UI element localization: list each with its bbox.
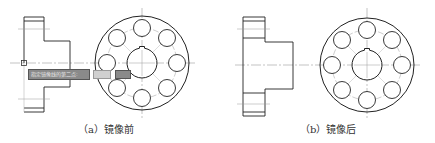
caption-panel-a: （a）镜像前	[78, 121, 134, 136]
profile-full-view	[243, 17, 293, 116]
panel-a-drawing	[10, 8, 195, 118]
flange-front-view	[320, 8, 414, 120]
coordinate-input-x[interactable]	[93, 70, 111, 79]
panel-b-drawing	[235, 8, 420, 120]
coordinate-input-y[interactable]	[115, 70, 131, 79]
caption-panel-b: （b）镜像后	[300, 121, 356, 136]
command-prompt-label: 指定镜像线的第二点:	[28, 69, 90, 80]
flange-front-view	[95, 8, 189, 118]
dynamic-input-tooltip: 指定镜像线的第二点:	[28, 69, 131, 79]
profile-half-view	[24, 17, 70, 112]
